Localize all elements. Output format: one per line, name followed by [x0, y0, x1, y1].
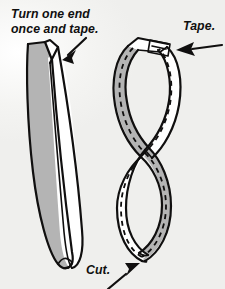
turn-arrow-tail [68, 38, 86, 55]
mobius-strip-illustration: .ink { fill: none; stroke: #100f0f; stro… [0, 0, 225, 289]
tape-arrow [176, 42, 222, 56]
cut-arrow-tail [108, 274, 126, 289]
label-turn-one-end: Turn one end once and tape. [11, 7, 99, 37]
label-tape: Tape. [183, 19, 215, 34]
band-upper-right-white [144, 48, 180, 158]
figure-mobius-band [114, 38, 181, 262]
label-cut: Cut. [86, 263, 110, 278]
turn-arrow-head [62, 50, 76, 64]
band-lower-right-gray [138, 148, 170, 260]
tape-arrow-tail [192, 45, 222, 49]
cut-arrow-head [125, 263, 140, 276]
figure-untwisted-strip [26, 40, 83, 268]
cut-arrow [108, 263, 140, 289]
illustration-page: .ink { fill: none; stroke: #100f0f; stro… [0, 0, 225, 289]
turn-arrow [62, 38, 86, 64]
band-bottom-edge [142, 261, 146, 262]
